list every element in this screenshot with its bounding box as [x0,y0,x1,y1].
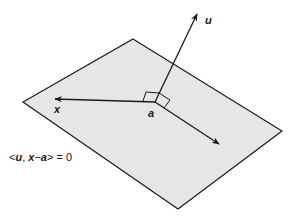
label-x: x [53,103,61,115]
hyperplane-equation: <u, x−a> = 0 [9,151,72,163]
hyperplane-diagram: u x a <u, x−a> = 0 [0,0,293,223]
plane [23,39,282,209]
label-u: u [205,14,212,26]
eq-rest: = 0 [53,151,72,163]
label-a: a [148,107,154,119]
